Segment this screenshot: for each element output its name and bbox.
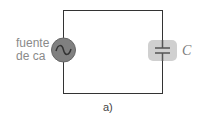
ac-source-icon [52,38,76,62]
circuit-wire-loop [64,11,163,94]
ac-source-label: fuente de ca [16,37,49,63]
figure-caption: a) [103,101,113,114]
capacitor-label: C [182,44,191,57]
ac-source-label-line2: de ca [16,50,49,63]
